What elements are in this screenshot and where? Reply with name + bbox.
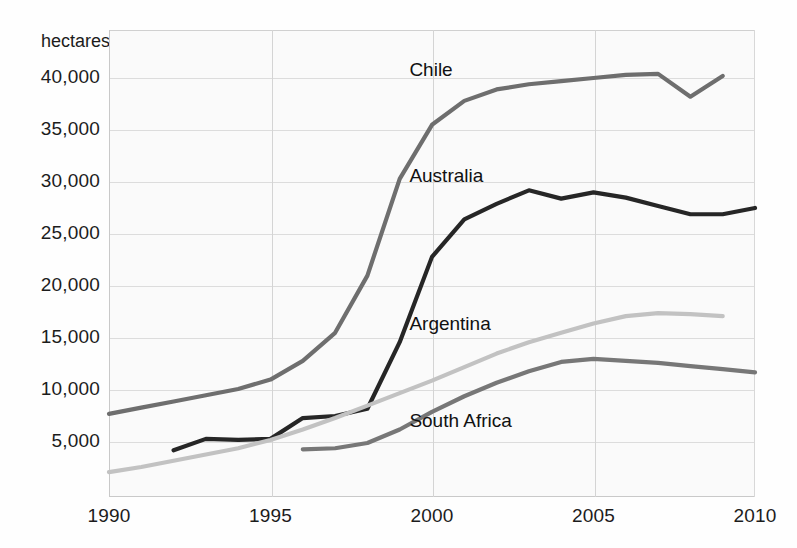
line-chart: hectares 5,00010,00015,00020,00025,00030… [0, 0, 797, 548]
series-label-chile: Chile [409, 59, 452, 81]
series-label-south-africa: South Africa [409, 410, 511, 432]
series-line-argentina [109, 313, 723, 472]
series-label-argentina: Argentina [409, 313, 490, 335]
series-lines [0, 0, 797, 548]
series-label-australia: Australia [409, 165, 483, 187]
